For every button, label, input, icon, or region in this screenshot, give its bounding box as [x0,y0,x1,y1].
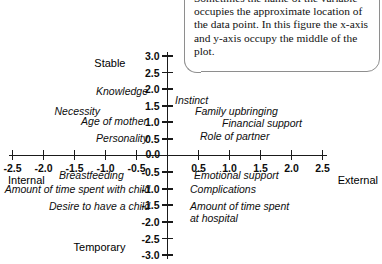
y-tick [162,72,173,74]
data-point-label: Desire to have a child [49,200,150,212]
scatter-plot: -2.5-2.0-1.5-1.0-0.50.51.01.52.02.50.03.… [0,0,382,264]
x-tick-label-zero: 0.0 [146,148,161,160]
data-point-label: Emotional support [194,169,279,181]
data-point-label: Knowledge [96,85,148,97]
y-axis-line [167,52,169,259]
y-tick [162,221,173,223]
data-point-label: Amount of time spent with child [5,183,150,195]
data-point-label: Financial support [222,117,302,129]
data-point-label: Role of partner [200,130,269,142]
data-point-label: Complications [190,183,256,195]
y-tick [162,55,173,57]
y-tick-label: -2.0 [0,216,160,228]
x-tick [198,150,200,160]
axis-pole-label-stable: Stable [94,57,125,69]
data-point-label: Family upbringing [195,105,278,117]
x-tick [43,150,45,160]
callout-tail [184,58,201,73]
x-tick [291,150,293,160]
y-tick [162,188,173,190]
y-tick [162,121,173,123]
x-tick [260,150,262,160]
x-tick [136,150,138,160]
x-tick [105,150,107,160]
x-tick-label: 2.0 [284,162,299,174]
x-tick [12,150,14,160]
x-tick-label: 2.5 [315,162,330,174]
y-tick [162,171,173,173]
y-tick [162,238,173,240]
axis-pole-label-external: External [338,174,378,186]
x-tick [322,150,324,160]
x-tick [229,150,231,160]
x-tick [74,150,76,160]
y-tick-label: 3.0 [0,50,160,62]
data-point-label: Personality [96,132,148,144]
y-tick [162,105,173,107]
y-tick [162,88,173,90]
data-point-label: Age of mother [81,115,147,127]
axis-pole-label-temporary: Temporary [74,241,126,253]
y-tick [162,138,173,140]
y-tick-label: 2.5 [0,67,160,79]
callout-box: Sometimes the name of the variable occup… [184,0,380,72]
data-point-label: Breastfeeding [59,169,124,181]
y-tick [162,204,173,206]
y-tick [162,254,173,256]
data-point-label: Amount of time spentat hospital [190,200,289,224]
